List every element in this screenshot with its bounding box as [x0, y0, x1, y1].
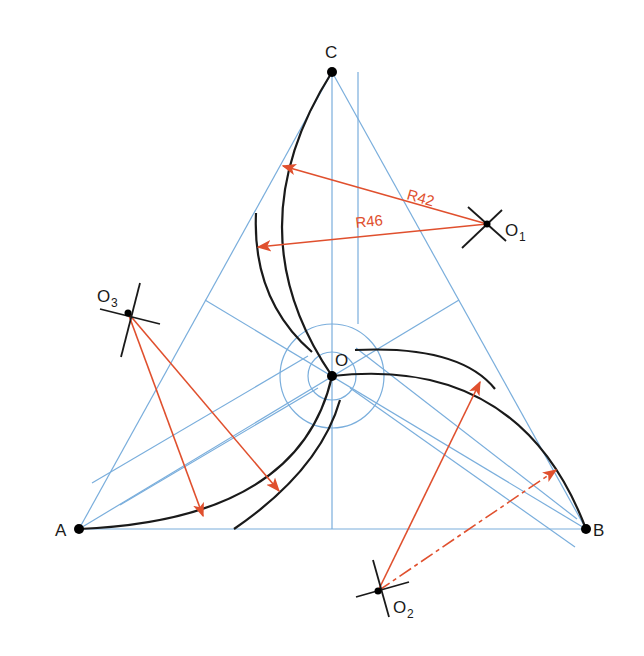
label-O: O [335, 351, 348, 370]
label-O1-subscript: 1 [519, 230, 526, 244]
radius-arrow-O2-2 [378, 470, 556, 591]
point-O1 [484, 221, 491, 228]
label-A: A [55, 521, 67, 540]
radius-arrows [128, 166, 556, 591]
label-O2-subscript: 2 [407, 607, 414, 621]
offset-line-right [350, 388, 575, 547]
point-O [327, 371, 337, 381]
median-from-B [205, 300, 586, 529]
center-marks [100, 207, 506, 617]
cross-O1-b [462, 210, 502, 248]
label-C: C [325, 43, 337, 62]
label-O3: O [97, 287, 110, 306]
point-O3 [125, 310, 132, 317]
dimension-label-R42: R42 [405, 186, 436, 210]
dimension-label-R46: R46 [355, 211, 384, 231]
cross-O3-b [121, 283, 140, 357]
diagram-canvas: A B C O O 1 O 3 O 2 R42 R46 [0, 0, 644, 656]
arc-upper-outer [282, 72, 332, 376]
label-O3-subscript: 3 [111, 296, 118, 310]
point-O2 [375, 588, 382, 595]
construction-lines [79, 72, 586, 547]
construction-drawing: A B C O O 1 O 3 O 2 R42 R46 [0, 0, 644, 656]
arc-left-inner [234, 400, 340, 529]
label-O2: O [393, 598, 406, 617]
radius-arrow-O3-2 [128, 313, 279, 491]
offset-line-left-2 [120, 388, 318, 505]
arc-right-inner [355, 349, 495, 389]
label-O1: O [505, 221, 518, 240]
offset-line-left-1 [92, 356, 308, 483]
radius-arrow-R42 [283, 166, 487, 224]
point-C [327, 67, 337, 77]
radius-arrow-O3-1 [128, 313, 203, 516]
point-B [581, 524, 591, 534]
label-B: B [593, 521, 604, 540]
arc-upper-inner [256, 213, 312, 352]
point-A [74, 524, 84, 534]
